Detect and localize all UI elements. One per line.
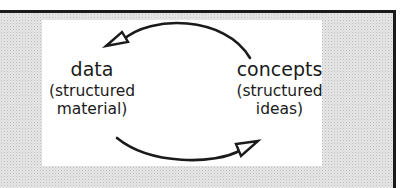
arrow-concepts-to-data: [123, 23, 250, 58]
node-concepts-subtitle-line1: (structured: [232, 82, 327, 100]
node-data-title: data: [47, 60, 137, 79]
arrow-data-to-concepts: [117, 138, 241, 160]
arrowhead-open-triangle-icon: [236, 141, 258, 156]
arrowhead-open-triangle-icon: [106, 32, 128, 46]
node-concepts-subtitle-line2: ideas): [232, 100, 327, 118]
node-data-subtitle-line1: (structured: [47, 82, 137, 100]
node-concepts-title: concepts: [232, 60, 327, 79]
node-data-subtitle-line2: material): [47, 100, 137, 118]
node-data: data (structured material): [47, 60, 137, 118]
node-concepts: concepts (structured ideas): [232, 60, 327, 118]
